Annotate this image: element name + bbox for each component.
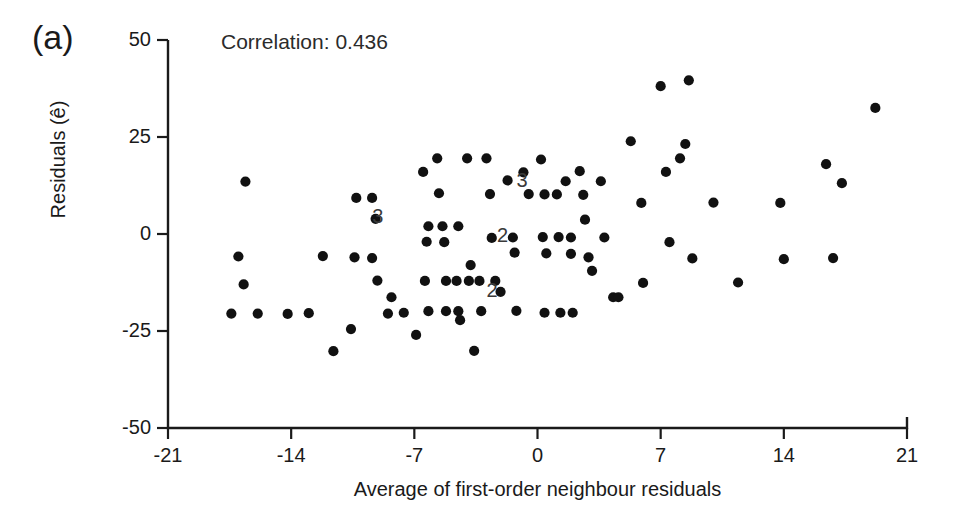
y-tick-label: 25 <box>95 125 151 148</box>
overlap-count-label: 2 <box>497 224 508 247</box>
x-tick-label: -14 <box>261 444 321 467</box>
data-point <box>423 221 433 231</box>
data-point <box>511 306 521 316</box>
data-point <box>538 232 548 242</box>
data-point <box>583 252 593 262</box>
data-point <box>420 276 430 286</box>
data-point <box>318 251 328 261</box>
data-point <box>561 176 571 186</box>
data-point <box>349 252 359 262</box>
data-point <box>508 232 518 242</box>
data-point <box>423 306 433 316</box>
data-point <box>434 188 444 198</box>
data-point <box>599 232 609 242</box>
data-point <box>568 308 578 318</box>
axes <box>157 40 907 439</box>
data-point <box>474 276 484 286</box>
data-point <box>411 330 421 340</box>
overlap-count-label: 3 <box>516 169 527 192</box>
data-point <box>372 275 382 285</box>
data-points <box>226 75 880 356</box>
y-tick-label: -25 <box>95 319 151 342</box>
data-point <box>383 308 393 318</box>
data-point <box>240 177 250 187</box>
data-point <box>451 276 461 286</box>
x-tick-label: -7 <box>384 444 444 467</box>
data-point <box>441 306 451 316</box>
y-tick-label: 0 <box>95 222 151 245</box>
data-point <box>539 308 549 318</box>
data-point <box>638 278 648 288</box>
data-point <box>481 153 491 163</box>
data-point <box>418 167 428 177</box>
data-point <box>552 189 562 199</box>
x-tick-label: -21 <box>138 444 198 467</box>
overlap-count-label: 3 <box>372 205 383 228</box>
data-point <box>680 139 690 149</box>
x-tick-label: 7 <box>631 444 691 467</box>
data-point <box>485 189 495 199</box>
data-point <box>870 103 880 113</box>
data-point <box>453 306 463 316</box>
data-point <box>367 193 377 203</box>
data-point <box>636 198 646 208</box>
data-point <box>441 276 451 286</box>
data-point <box>253 308 263 318</box>
data-point <box>328 346 338 356</box>
data-point <box>346 324 356 334</box>
data-point <box>733 277 743 287</box>
data-point <box>828 253 838 263</box>
data-point <box>775 198 785 208</box>
data-point <box>664 237 674 247</box>
data-point <box>437 221 447 231</box>
x-tick-label: 14 <box>754 444 814 467</box>
data-point <box>684 75 694 85</box>
data-point <box>541 248 551 258</box>
overlap-count-label: 2 <box>487 279 498 302</box>
y-tick-label: -50 <box>95 416 151 439</box>
data-point <box>476 306 486 316</box>
data-point <box>399 308 409 318</box>
data-point <box>687 253 697 263</box>
data-point <box>455 315 465 325</box>
y-tick-label: 50 <box>95 28 151 51</box>
data-point <box>367 253 377 263</box>
data-point <box>675 153 685 163</box>
data-point <box>466 260 476 270</box>
data-point <box>422 237 432 247</box>
data-point <box>821 159 831 169</box>
data-point <box>837 178 847 188</box>
axis-spines <box>168 40 907 428</box>
data-point <box>386 292 396 302</box>
data-point <box>575 166 585 176</box>
data-point <box>239 279 249 289</box>
data-point <box>233 251 243 261</box>
data-point <box>462 153 472 163</box>
data-point <box>779 254 789 264</box>
data-point <box>555 308 565 318</box>
data-point <box>566 232 576 242</box>
tick-marks <box>157 40 907 439</box>
data-point <box>432 153 442 163</box>
data-point <box>580 215 590 225</box>
data-point <box>487 233 497 243</box>
data-point <box>439 237 449 247</box>
data-point <box>613 292 623 302</box>
data-point <box>304 308 314 318</box>
scatter-plot-canvas <box>0 0 961 518</box>
data-point <box>587 266 597 276</box>
data-point <box>502 175 512 185</box>
data-point <box>656 81 666 91</box>
data-point <box>539 189 549 199</box>
data-point <box>566 249 576 259</box>
data-point <box>351 193 361 203</box>
data-point <box>626 136 636 146</box>
data-point <box>661 167 671 177</box>
figure-panel: (a) Correlation: 0.436 Residuals (ê) Ave… <box>0 0 961 518</box>
data-point <box>283 309 293 319</box>
data-point <box>596 176 606 186</box>
data-point <box>708 197 718 207</box>
data-point <box>554 232 564 242</box>
x-tick-label: 0 <box>508 444 568 467</box>
data-point <box>578 190 588 200</box>
